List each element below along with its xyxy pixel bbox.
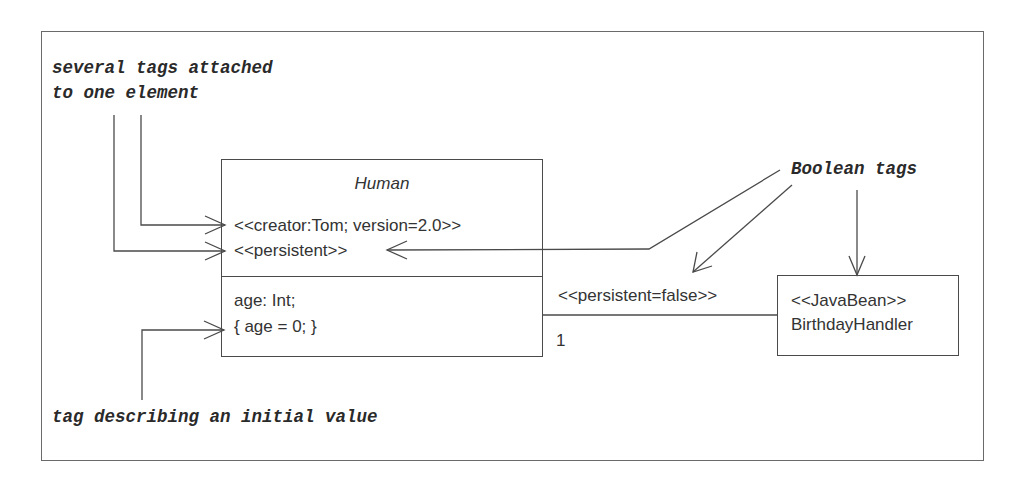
leader-several-tags-persistent	[114, 115, 225, 251]
tag-creator-version: <<creator:Tom; version=2.0>>	[234, 215, 461, 237]
annotation-initial-value: tag describing an initial value	[52, 405, 378, 430]
leader-several-tags-creator	[141, 115, 225, 225]
attribute-age: age: Int;	[234, 290, 295, 312]
compartment-divider	[222, 276, 542, 277]
birthday-handler-class-box: <<JavaBean>> BirthdayHandler	[777, 275, 959, 356]
association-tag: <<persistent=false>>	[558, 285, 717, 307]
attribute-initial-value: { age = 0; }	[234, 316, 317, 338]
stereotype-javabean: <<JavaBean>>	[791, 290, 906, 312]
association-multiplicity: 1	[556, 330, 565, 352]
annotation-several-tags: several tags attached to one element	[52, 56, 273, 106]
human-class-box: Human <<creator:Tom; version=2.0>> <<per…	[221, 159, 543, 357]
leader-boolean-association	[693, 185, 792, 272]
annotation-boolean-tags: Boolean tags	[791, 157, 917, 182]
class-name: Human	[222, 173, 542, 195]
class-name: BirthdayHandler	[791, 314, 913, 336]
tag-persistent: <<persistent>>	[234, 240, 347, 262]
leader-initial-value	[142, 330, 224, 400]
